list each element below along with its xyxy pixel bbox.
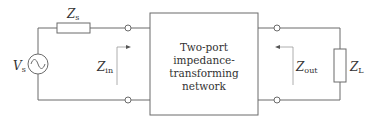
input-terminal-bottom (125, 97, 131, 103)
ac-source-icon (28, 54, 48, 74)
circuit-diagram: Zs Vs Zin Zout ZL Two-port impedance- tr… (0, 0, 375, 121)
zout-arrow-icon (275, 45, 293, 85)
network-label-line-4: network (182, 80, 227, 92)
input-impedance-label: Zin (96, 60, 113, 75)
input-terminal-top (125, 25, 131, 31)
output-terminal-bottom (274, 97, 280, 103)
network-label-line-1: Two-port (180, 41, 229, 53)
source-voltage-label: Vs (13, 59, 26, 74)
zin-arrow-icon (117, 45, 131, 85)
network-label-line-2: impedance- (173, 54, 235, 66)
output-terminal-top (274, 25, 280, 31)
load-impedance-resistor (334, 49, 346, 82)
output-impedance-label: Zout (295, 60, 318, 75)
network-label-line-3: transforming (169, 67, 239, 79)
source-side-wiring (38, 28, 150, 100)
load-impedance-label: ZL (349, 60, 364, 75)
source-impedance-resistor (57, 23, 90, 33)
source-impedance-label: Zs (66, 7, 79, 22)
